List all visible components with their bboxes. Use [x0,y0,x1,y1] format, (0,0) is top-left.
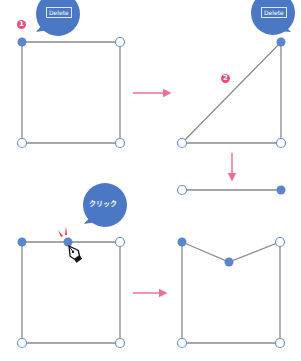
click-spark-icon [58,226,67,237]
anchor-selected-icon [18,238,27,247]
anchor-icon [178,186,187,195]
anchor-icon [18,139,27,148]
delete-label: Delete [46,7,72,18]
anchor-icon [277,139,286,148]
anchor-icon [116,139,125,148]
anchor-selected-icon [178,238,187,247]
bubble-label-delete-2: Delete [261,10,287,17]
anchor-selected-icon [277,38,286,47]
notched-shape [182,242,280,343]
anchor-moved-icon [225,258,234,267]
step-badge-2: 2 [221,74,230,83]
triangle-shape [182,42,281,143]
bubble-label-click: クリック [89,201,117,208]
delete-label: Delete [261,7,287,18]
anchor-icon [178,139,187,148]
anchor-icon [116,238,125,247]
anchor-icon [116,339,125,348]
anchor-icon [18,339,27,348]
anchor-icon [116,38,125,47]
bubble-label-delete-1: Delete [46,10,72,17]
anchor-selected-icon [18,38,27,47]
anchor-icon [178,339,187,348]
anchor-icon [276,339,285,348]
panel-open-line [178,186,286,195]
panel-notched-result [178,238,285,348]
square-shape [22,42,120,143]
anchor-icon [276,238,285,247]
step-badge-1: 1 [17,20,26,29]
diagram-canvas [0,0,301,361]
panel-square-step1 [18,0,125,148]
anchor-added-icon [64,238,73,247]
panel-triangle-step2 [178,0,296,148]
anchor-selected-icon [277,186,286,195]
